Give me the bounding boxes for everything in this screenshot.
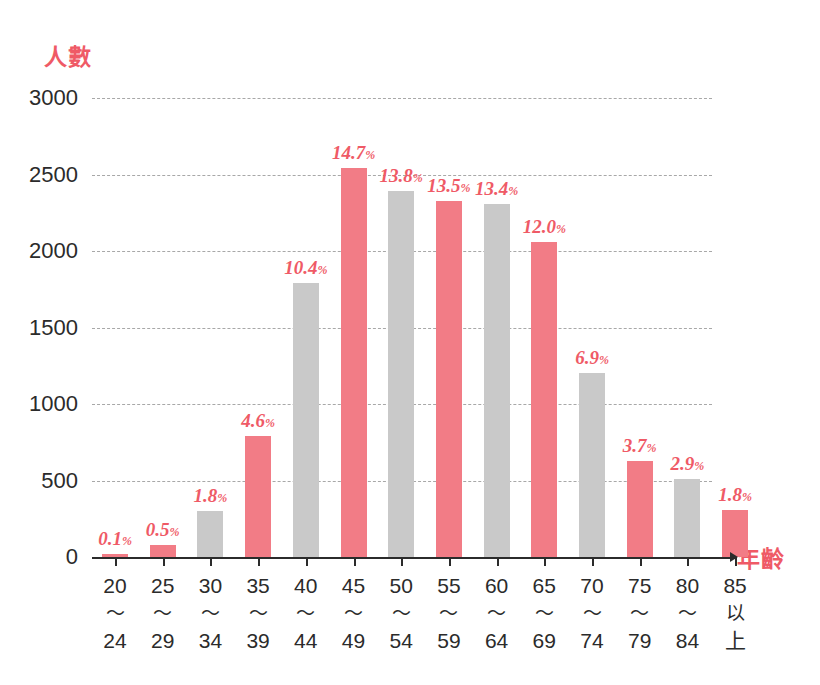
bar[interactable] [245,436,271,557]
bar-value-label: 10.4% [284,257,327,279]
bar-value-label: 0.1% [98,528,132,550]
y-axis-tick-label: 0 [0,544,78,570]
bar-value-label: 1.8% [194,485,228,507]
x-axis-tick [210,557,212,566]
bar[interactable] [579,373,605,557]
x-axis-tick [115,557,117,566]
bar[interactable] [722,510,748,557]
x-axis-category-label: 85以上 [707,572,763,656]
bar[interactable] [436,201,462,557]
y-axis-title: 人數 [44,38,92,72]
bar-value-label: 12.0% [523,216,566,238]
bar-value-label: 13.8% [380,165,423,187]
bar[interactable] [197,511,223,557]
bar-value-label: 3.7% [623,435,657,457]
x-axis-tick [497,557,499,566]
y-axis-tick-label: 500 [0,468,78,494]
bar-value-label: 4.6% [241,410,275,432]
bar-value-label: 1.8% [718,484,752,506]
y-axis-tick-label: 3000 [0,85,78,111]
x-axis-tick [592,557,594,566]
x-axis-tick [401,557,403,566]
bar[interactable] [531,242,557,557]
bar-value-label: 13.4% [475,178,518,200]
x-axis-tick [735,557,737,566]
y-axis-tick-label: 1000 [0,391,78,417]
bar[interactable] [150,545,176,557]
x-axis-tick [258,557,260,566]
x-axis-tick [544,557,546,566]
x-axis-tick [449,557,451,566]
x-axis-tick [163,557,165,566]
bar[interactable] [293,283,319,557]
bar[interactable] [627,461,653,557]
bar[interactable] [674,479,700,557]
bar-value-label: 6.9% [575,347,609,369]
plot-area [92,90,712,557]
bar[interactable] [341,168,367,557]
x-axis-tick [687,557,689,566]
bar-value-label: 13.5% [427,175,470,197]
bar[interactable] [484,204,510,557]
x-axis-tick [306,557,308,566]
bar-value-label: 2.9% [671,453,705,475]
bar-value-label: 14.7% [332,142,375,164]
y-axis-tick-label: 2000 [0,238,78,264]
x-axis-tick [354,557,356,566]
bar[interactable] [388,191,414,557]
x-axis-tick [640,557,642,566]
y-axis-tick-label: 1500 [0,315,78,341]
bar-chart: 人數 年齡 050010001500200025003000 20〜2425〜2… [0,0,820,685]
bar-value-label: 0.5% [146,519,180,541]
y-axis-tick-label: 2500 [0,162,78,188]
